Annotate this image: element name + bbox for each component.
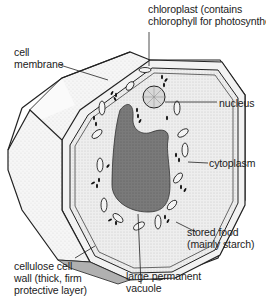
nucleus (143, 86, 165, 108)
label-stored-food: stored food (mainly starch) (187, 226, 254, 250)
label-nucleus: nucleus (219, 97, 255, 109)
label-cell-membrane: cell membrane (14, 46, 63, 70)
label-cytoplasm: cytoplasm (209, 157, 255, 169)
label-chloroplast: chloroplast (contains chlorophyll for ph… (148, 3, 266, 27)
label-cell-wall: cellulose cell wall (thick, firm protect… (14, 260, 87, 296)
label-vacuole: large permanent vacuole (126, 270, 201, 294)
